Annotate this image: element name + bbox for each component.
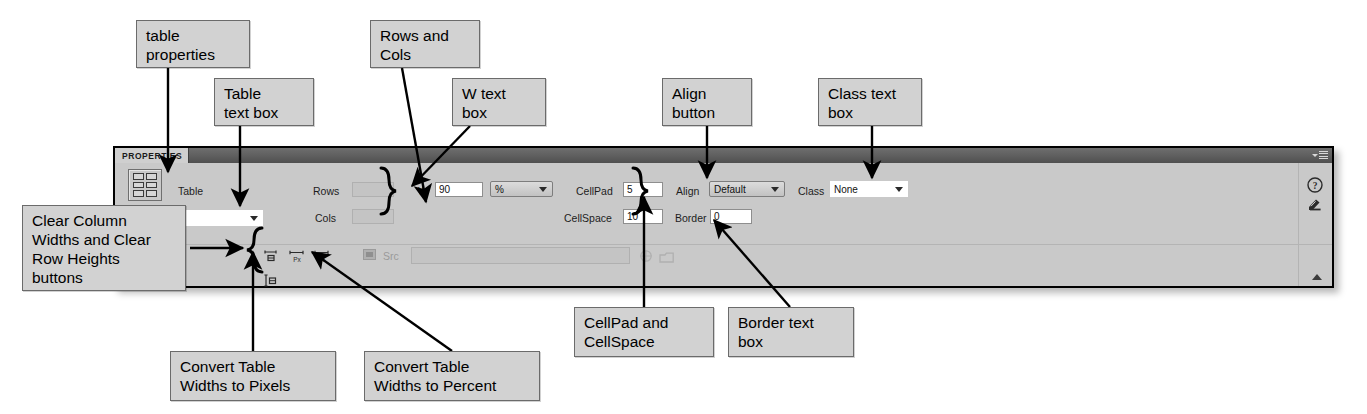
- cellspace-input[interactable]: 10: [623, 209, 663, 224]
- clear-row-heights-button[interactable]: [263, 273, 279, 288]
- callout-table-properties: table properties: [136, 20, 250, 68]
- panel-divider: [115, 244, 1332, 245]
- panel-right-gutter: ?: [1298, 163, 1332, 286]
- align-value: Default: [714, 184, 746, 195]
- properties-panel: PROPERTIES ?: [113, 146, 1334, 288]
- cellpad-value: 5: [627, 184, 633, 195]
- gutter-divider: [1298, 163, 1299, 286]
- cellspace-value: 10: [627, 211, 638, 222]
- image-placeholder-icon: [363, 249, 376, 260]
- chevron-down-icon: [539, 187, 547, 192]
- chevron-down-icon: [250, 216, 258, 221]
- class-select[interactable]: None: [830, 181, 908, 197]
- src-row: Src: [355, 247, 685, 265]
- table-grid-icon[interactable]: [128, 169, 162, 201]
- callout-w-text-box: W text box: [452, 78, 546, 126]
- table-label: Table: [178, 186, 203, 197]
- help-icon[interactable]: ?: [1307, 177, 1323, 197]
- chevron-down-icon: [895, 187, 903, 192]
- w-label: W: [418, 186, 428, 197]
- callout-convert-percent: Convert Table Widths to Percent: [364, 351, 540, 401]
- browse-folder-icon[interactable]: [659, 250, 675, 268]
- menu-lines-icon: [1319, 151, 1328, 159]
- w-input[interactable]: 90: [435, 182, 483, 197]
- callout-border-text-box: Border text box: [728, 307, 854, 357]
- callout-convert-pixels: Convert Table Widths to Pixels: [170, 351, 336, 401]
- src-label: Src: [383, 251, 399, 262]
- svg-text:?: ?: [1313, 181, 1318, 191]
- clear-column-widths-button[interactable]: [263, 249, 279, 264]
- panel-body: ? Table: [115, 163, 1332, 286]
- class-label: Class: [798, 186, 824, 197]
- panel-titlebar: PROPERTIES: [115, 148, 1332, 163]
- callout-clear-widths-heights: Clear Column Widths and Clear Row Height…: [22, 205, 186, 291]
- cellpad-input[interactable]: 5: [623, 182, 663, 197]
- cols-label: Cols: [315, 213, 336, 224]
- border-input[interactable]: 0: [710, 209, 752, 224]
- convert-table-widths-to-pixels-button[interactable]: Px: [288, 249, 304, 264]
- edit-properties-icon[interactable]: [1307, 196, 1323, 216]
- panel-tab-label: PROPERTIES: [122, 151, 182, 161]
- align-select[interactable]: Default: [709, 181, 785, 197]
- border-value: 0: [714, 211, 720, 222]
- w-value: 90: [439, 184, 450, 195]
- chevron-down-icon: [771, 187, 779, 192]
- svg-text:%: %: [319, 256, 325, 263]
- svg-text:Px: Px: [293, 256, 301, 263]
- src-input[interactable]: [411, 247, 630, 264]
- table-select[interactable]: [175, 210, 263, 226]
- class-value: None: [834, 184, 858, 195]
- w-unit-value: %: [495, 184, 504, 195]
- border-label: Border: [675, 213, 707, 224]
- cols-input[interactable]: [352, 209, 394, 224]
- align-label: Align: [676, 186, 699, 197]
- callout-rows-and-cols: Rows and Cols: [370, 20, 480, 68]
- rows-label: Rows: [313, 186, 339, 197]
- chevron-down-icon: [1312, 154, 1318, 157]
- convert-table-widths-to-percent-button[interactable]: %: [313, 249, 329, 264]
- callout-cellpad-cellspace: CellPad and CellSpace: [574, 307, 714, 357]
- tab-properties[interactable]: PROPERTIES: [115, 148, 189, 163]
- callout-align-button: Align button: [662, 78, 752, 126]
- screenshot-stage: PROPERTIES ?: [0, 0, 1367, 414]
- w-unit-select[interactable]: %: [490, 181, 553, 197]
- collapse-triangle-icon[interactable]: [1312, 274, 1322, 280]
- rows-input[interactable]: [352, 182, 394, 197]
- callout-class-text-box: Class text box: [818, 78, 922, 126]
- panel-menu-icon[interactable]: [1312, 150, 1328, 160]
- callout-table-text-box: Table text box: [214, 78, 314, 126]
- point-to-file-icon[interactable]: [639, 249, 653, 267]
- cellpad-label: CellPad: [576, 186, 613, 197]
- cellspace-label: CellSpace: [564, 213, 612, 224]
